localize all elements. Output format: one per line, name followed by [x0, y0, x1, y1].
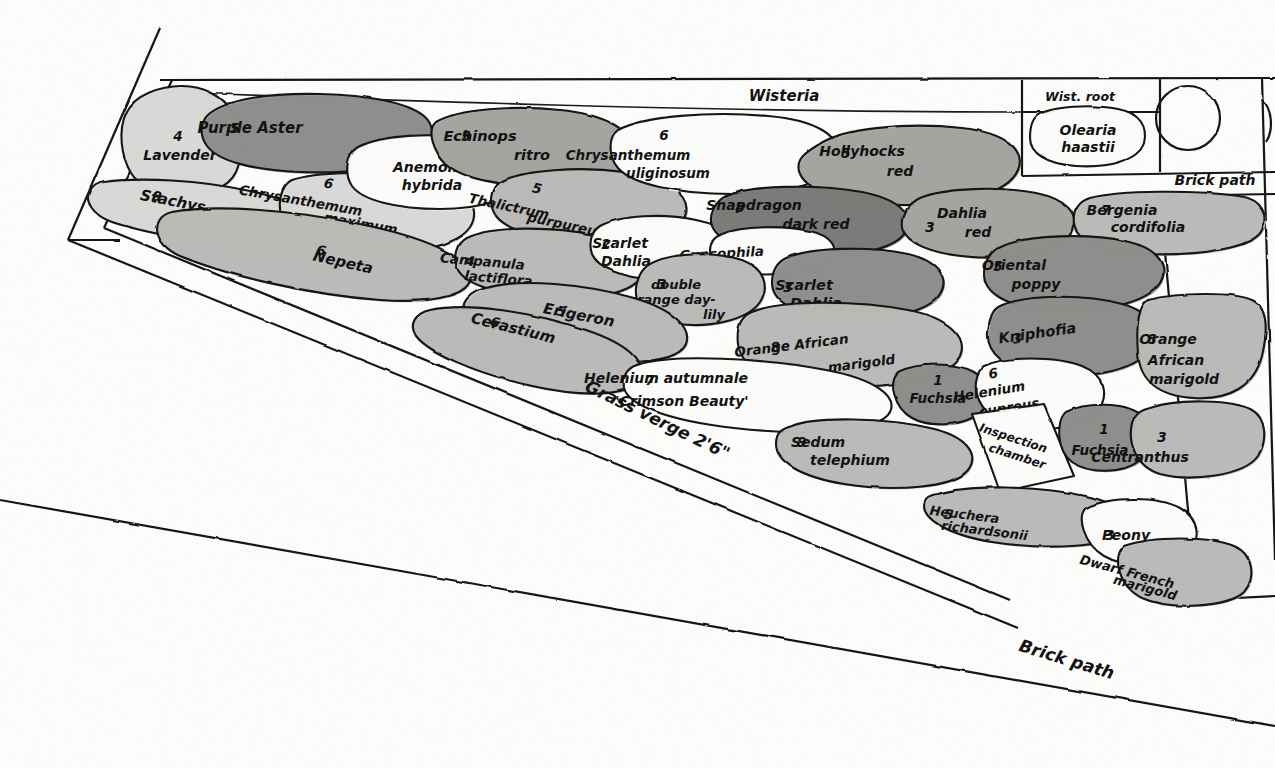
- bed-name-oriental-poppy: Oriental: [982, 257, 1046, 273]
- bed-qty-centranthus: 3: [1157, 429, 1166, 445]
- bed-name-echinops-ritro: Echinops: [443, 128, 516, 144]
- bed-name-orange-african-marigold-8b: Orange: [1139, 331, 1197, 347]
- bed-name-centranthus: Centranthus: [1091, 449, 1189, 465]
- bed-name-purple-aster: Purple Aster: [197, 119, 304, 137]
- bed-name2-orange-african-marigold-8b: African: [1147, 352, 1204, 368]
- bed-qty-fuchsia-bottom: 1: [1099, 421, 1108, 437]
- bed-outline-centranthus: [1131, 401, 1264, 477]
- bed-name2-dahlia-red: red: [965, 224, 992, 240]
- bed-qty-fuchsia-top: 1: [933, 372, 942, 388]
- structure-label-wisteria: Wisteria: [749, 87, 820, 105]
- structure-label-brick-path-top: Brick path: [1175, 172, 1256, 188]
- bed-name2-hollyhocks-red: red: [887, 163, 914, 179]
- bed-name-hollyhocks-red: Hollyhocks: [819, 143, 905, 159]
- structure-label-wist-root: Wist. root: [1045, 89, 1116, 104]
- garden-plan-svg: 4Lavender5Purple Aster9Stachys6Chrysanth…: [0, 0, 1275, 768]
- bed-name2-sedum-telephium: telephium: [810, 452, 890, 468]
- bed-orange-african-marigold-8b[interactable]: 8OrangeAfricanmarigold: [1137, 294, 1267, 400]
- bed-name-chrysanthemum-uliginosum: Chrysanthemum: [566, 147, 691, 163]
- bed-name2-olearia-haastii: haastii: [1061, 139, 1115, 155]
- bed-name-snapdragon-dark-red: Snapdragon: [706, 197, 802, 213]
- bed-olearia-haastii[interactable]: Oleariahaastii: [1030, 106, 1146, 168]
- bed-name2-oriental-poppy: poppy: [1011, 276, 1062, 292]
- bed-qty-lavender: 4: [172, 128, 182, 144]
- garden-plan-root: 4Lavender5Purple Aster9Stachys6Chrysanth…: [0, 0, 1275, 768]
- bed-qty-dahlia-red: 3: [925, 219, 934, 235]
- bed-name3-double-orange-day-lily: lily: [703, 307, 725, 322]
- bed-name2-scarlet-dahlia-2: Dahlia: [601, 253, 651, 269]
- bed-name2-anemone-hybrida: hybrida: [402, 177, 462, 193]
- bed-name2-chrysanthemum-uliginosum: uliginosum: [626, 165, 710, 181]
- bed-name-scarlet-dahlia-3: Scarlet: [775, 277, 834, 293]
- bed-name3-orange-african-marigold-8b: marigold: [1149, 371, 1220, 387]
- bed-name-sedum-telephium: Sedum: [791, 434, 845, 450]
- bed-name-bergenia-cordifolia: Bergenia: [1087, 202, 1158, 218]
- bed-name-lavender: Lavender: [143, 147, 217, 163]
- bed-qty-chrysanthemum-uliginosum: 6: [659, 127, 668, 143]
- bed-name2-bergenia-cordifolia: cordifolia: [1111, 219, 1185, 235]
- bed-name-scarlet-dahlia-2: Scarlet: [592, 235, 649, 251]
- bed-name-double-orange-day-lily: double: [651, 277, 701, 292]
- bed-name-olearia-haastii: Olearia: [1060, 122, 1117, 138]
- bed-name-dahlia-red: Dahlia: [937, 205, 987, 221]
- bed-name2-echinops-ritro: ritro: [514, 147, 550, 163]
